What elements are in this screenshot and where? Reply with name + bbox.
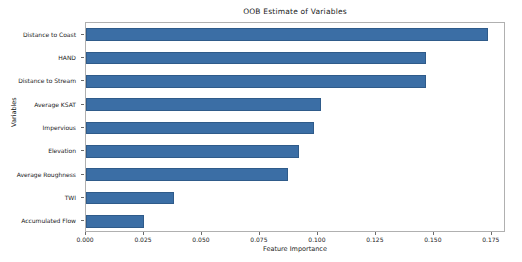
y-axis-tick-mark bbox=[81, 197, 84, 198]
bar bbox=[86, 28, 488, 41]
y-axis-tick-label: Average KSAT bbox=[34, 100, 76, 107]
x-axis-tick-mark bbox=[259, 232, 260, 235]
x-axis-tick-label: 0.025 bbox=[134, 236, 151, 243]
bar bbox=[86, 145, 299, 158]
bar bbox=[86, 98, 321, 111]
y-axis-tick-mark bbox=[81, 174, 84, 175]
y-axis-tick-label: HAND bbox=[58, 54, 76, 61]
x-axis-tick-label: 0.000 bbox=[76, 236, 93, 243]
y-axis-tick-label: Distance to Coast bbox=[23, 30, 76, 37]
x-axis-tick-label: 0.150 bbox=[424, 236, 441, 243]
chart-title: OOB Estimate of Variables bbox=[85, 7, 505, 16]
y-axis-tick-label: Distance to Stream bbox=[18, 77, 76, 84]
chart-figure: OOB Estimate of Variables Variables Dist… bbox=[0, 0, 522, 262]
y-axis-tick-label: Average Roughness bbox=[17, 170, 76, 177]
bar bbox=[86, 192, 174, 205]
bar bbox=[86, 122, 314, 135]
bar bbox=[86, 215, 144, 228]
x-axis-tick-mark bbox=[433, 232, 434, 235]
x-axis-tick-label: 0.075 bbox=[250, 236, 267, 243]
x-axis-tick-mark bbox=[491, 232, 492, 235]
x-axis-tick-label: 0.125 bbox=[366, 236, 383, 243]
y-axis-tick-mark bbox=[81, 127, 84, 128]
x-axis-tick-mark bbox=[85, 232, 86, 235]
x-axis-tick-label: 0.175 bbox=[482, 236, 499, 243]
y-axis-tick-label: Impervious bbox=[43, 124, 76, 131]
x-axis-tick-mark bbox=[317, 232, 318, 235]
y-axis-tick-label: Accumulated Flow bbox=[21, 217, 76, 224]
x-axis-tick-label: 0.050 bbox=[192, 236, 209, 243]
y-axis-tick-mark bbox=[81, 34, 84, 35]
y-axis-tick-mark bbox=[81, 57, 84, 58]
x-axis-tick-label: 0.100 bbox=[308, 236, 325, 243]
y-axis-tick-labels: Distance to CoastHANDDistance to StreamA… bbox=[0, 22, 81, 232]
y-axis-tick-mark bbox=[81, 220, 84, 221]
y-axis-tick-label: TWI bbox=[65, 194, 76, 201]
y-axis-tick-mark bbox=[81, 150, 84, 151]
bar bbox=[86, 52, 426, 65]
x-axis-label: Feature Importance bbox=[85, 245, 505, 253]
x-axis-ticks: 0.0000.0250.0500.0750.1000.1250.1500.175 bbox=[85, 232, 506, 246]
bar bbox=[86, 168, 288, 181]
x-axis-tick-mark bbox=[201, 232, 202, 235]
y-axis-tick-mark bbox=[81, 80, 84, 81]
y-axis-tick-mark bbox=[81, 104, 84, 105]
plot-area bbox=[85, 22, 505, 232]
bar bbox=[86, 75, 426, 88]
x-axis-tick-mark bbox=[143, 232, 144, 235]
bars-layer bbox=[86, 23, 504, 231]
x-axis-tick-mark bbox=[375, 232, 376, 235]
y-axis-tick-label: Elevation bbox=[48, 147, 76, 154]
